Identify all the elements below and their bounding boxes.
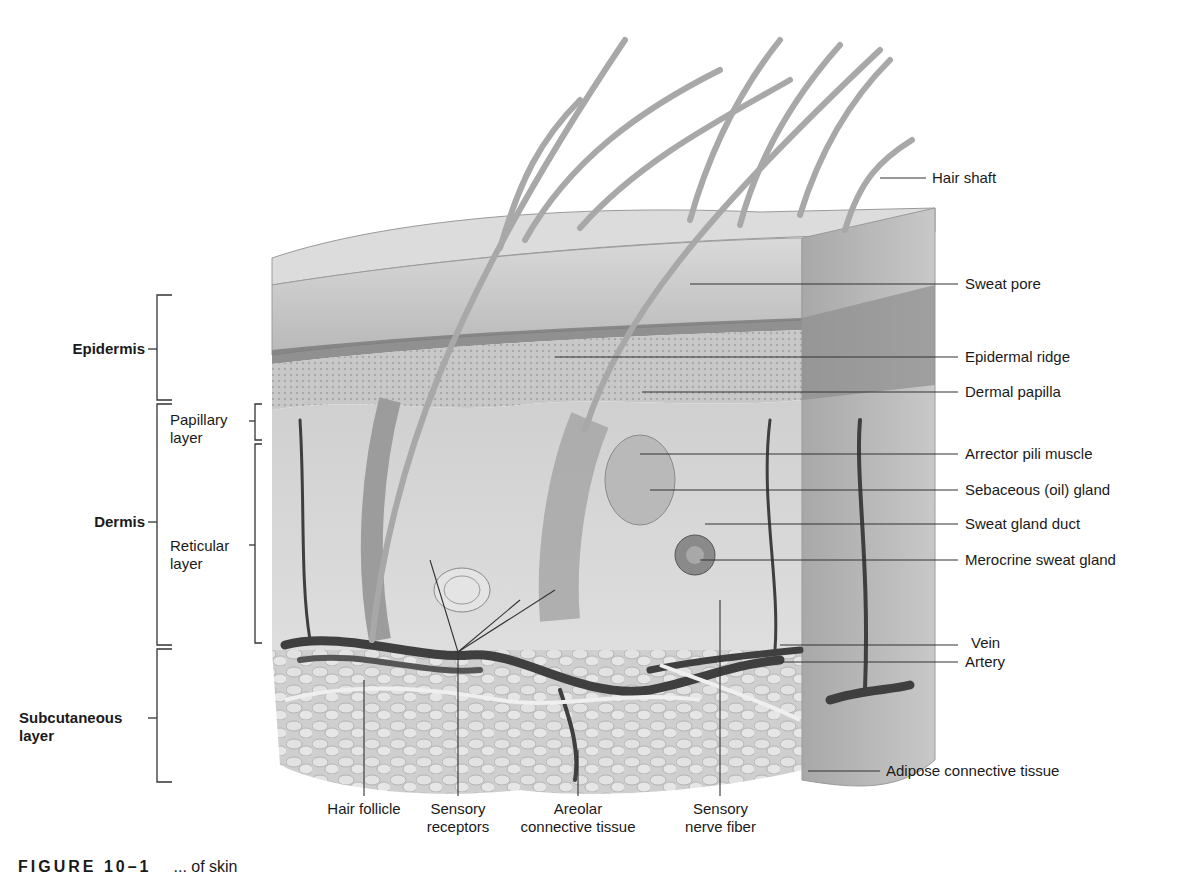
label-hair-shaft: Hair shaft bbox=[932, 169, 996, 187]
label-artery: Artery bbox=[965, 653, 1005, 671]
label-sensory-nerve-fiber-line2: nerve fiber bbox=[668, 818, 773, 836]
label-sensory-receptors-line1: Sensory bbox=[408, 800, 508, 818]
label-reticular-line2: layer bbox=[170, 555, 229, 573]
skin-block bbox=[272, 208, 935, 794]
label-subcutaneous-line2: layer bbox=[19, 727, 122, 745]
label-hair-follicle-line1: Hair follicle bbox=[309, 800, 419, 818]
label-sweat-pore: Sweat pore bbox=[965, 275, 1041, 293]
label-areolar-line2: connective tissue bbox=[513, 818, 643, 836]
label-papillary-line1: Papillary bbox=[170, 411, 228, 429]
figure-number: FIGURE 10–1 bbox=[18, 858, 151, 875]
label-sensory-receptors-line2: receptors bbox=[408, 818, 508, 836]
label-reticular-layer: Reticular layer bbox=[170, 537, 229, 573]
label-arrector-pili-muscle: Arrector pili muscle bbox=[965, 445, 1093, 463]
label-papillary-layer: Papillary layer bbox=[170, 411, 228, 447]
label-merocrine-sweat-gland: Merocrine sweat gland bbox=[965, 551, 1116, 569]
label-vein: Vein bbox=[971, 634, 1000, 652]
figure-caption-text: ... of skin bbox=[173, 858, 237, 875]
label-hair-follicle: Hair follicle bbox=[309, 800, 419, 818]
label-adipose-connective-tissue: Adipose connective tissue bbox=[886, 762, 1059, 780]
label-papillary-line2: layer bbox=[170, 429, 228, 447]
label-areolar-line1: Areolar bbox=[513, 800, 643, 818]
label-sensory-receptors: Sensory receptors bbox=[408, 800, 508, 836]
label-sebaceous-gland: Sebaceous (oil) gland bbox=[965, 481, 1110, 499]
label-sensory-nerve-fiber-line1: Sensory bbox=[668, 800, 773, 818]
label-dermis: Dermis bbox=[40, 513, 145, 531]
label-subcutaneous-line1: Subcutaneous bbox=[19, 709, 122, 727]
label-epidermis: Epidermis bbox=[40, 340, 145, 358]
label-epidermal-ridge: Epidermal ridge bbox=[965, 348, 1070, 366]
label-subcutaneous-layer: Subcutaneous layer bbox=[19, 709, 122, 745]
label-reticular-line1: Reticular bbox=[170, 537, 229, 555]
label-areolar-connective-tissue: Areolar connective tissue bbox=[513, 800, 643, 836]
figure-caption: FIGURE 10–1... of skin bbox=[18, 858, 238, 876]
label-dermal-papilla: Dermal papilla bbox=[965, 383, 1061, 401]
label-sweat-gland-duct: Sweat gland duct bbox=[965, 515, 1080, 533]
label-sensory-nerve-fiber: Sensory nerve fiber bbox=[668, 800, 773, 836]
